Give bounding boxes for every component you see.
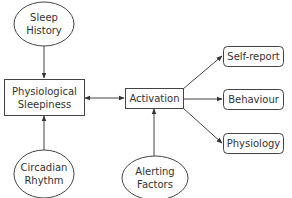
node-label-line2: Sleepiness (18, 99, 71, 110)
rect-shape (5, 80, 85, 116)
node-label: Physiology (227, 138, 281, 149)
edge-activation-to-physiology (183, 108, 222, 143)
node-sleep-history: Sleep History (14, 2, 74, 46)
node-physiological-sleepiness: Physiological Sleepiness (5, 80, 85, 116)
node-alerting-factors: Alerting Factors (122, 156, 188, 198)
ellipse-shape (14, 150, 74, 198)
node-label-line2: History (26, 25, 62, 36)
node-label-line1: Circadian (21, 162, 68, 173)
node-label-line2: Factors (137, 179, 173, 190)
sleepiness-model-diagram: Sleep History Physiological Sleepiness C… (0, 0, 292, 198)
node-label-line1: Alerting (135, 166, 174, 177)
node-label-line1: Sleep (30, 12, 58, 23)
edge-activation-to-self-report (183, 56, 222, 89)
node-label: Self-report (227, 51, 279, 62)
ellipse-shape (14, 2, 74, 46)
node-circadian-rhythm: Circadian Rhythm (14, 150, 74, 198)
node-behaviour: Behaviour (224, 90, 284, 110)
node-label-line2: Rhythm (24, 175, 63, 186)
ellipse-shape (122, 156, 188, 198)
node-label: Activation (129, 93, 179, 104)
node-physiology: Physiology (224, 134, 284, 154)
node-self-report: Self-report (224, 47, 284, 67)
node-label-line1: Physiological (12, 86, 77, 97)
node-label: Behaviour (228, 94, 280, 105)
node-activation: Activation (126, 89, 184, 109)
